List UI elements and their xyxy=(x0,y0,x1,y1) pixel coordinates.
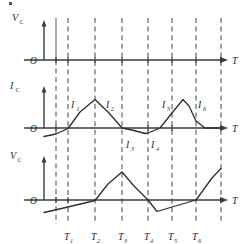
time-label-t2: T 2 xyxy=(91,231,100,244)
current-label-i4: I 4 xyxy=(150,139,159,152)
time-label-t6: T 6 xyxy=(192,231,202,244)
current-label-i3: I 3 xyxy=(125,139,134,152)
chart-top-y-arrow-icon xyxy=(42,20,47,27)
current-label-i6-sub: 6 xyxy=(203,105,207,112)
current-label-i4-base: I xyxy=(150,139,155,150)
chart-bottom-x-arrow-icon xyxy=(220,197,228,203)
current-label-i1-base: I xyxy=(70,99,75,110)
current-label-i5: I 5 xyxy=(161,99,170,112)
waveform-figure: V C O T I C O T I 1 I xyxy=(0,0,249,244)
current-label-i2: I 2 xyxy=(105,99,114,112)
chart-bottom-voltage-waveform xyxy=(44,169,221,213)
chart-bottom-y-arrow-icon xyxy=(42,156,47,163)
current-label-i3-sub: 3 xyxy=(130,145,134,152)
chart-top-origin-label: O xyxy=(30,56,37,66)
time-label-t5-sub: 5 xyxy=(174,237,177,244)
chart-top-x-label: T xyxy=(232,55,239,66)
current-label-i1: I 1 xyxy=(70,99,80,112)
current-label-i1-sub: 1 xyxy=(77,105,80,112)
current-label-i4-sub: 4 xyxy=(156,145,159,152)
chart-middle-y-label-sub: C xyxy=(16,86,20,93)
current-label-i6: I 6 xyxy=(197,99,207,112)
chart-bottom-origin-label: O xyxy=(30,196,37,206)
current-label-i5-base: I xyxy=(161,99,166,110)
time-axis-labels: T 1 T 2 T 3 T 4 T 5 T 6 xyxy=(64,231,202,244)
time-label-t4-sub: 4 xyxy=(150,237,153,244)
chart-middle-y-arrow-icon xyxy=(42,86,47,93)
chart-middle: I C O T I 1 I 2 I 3 I 4 I 5 xyxy=(9,80,239,152)
chart-middle-origin-label: O xyxy=(30,124,37,134)
waveform-svg: V C O T I C O T I 1 I xyxy=(0,0,249,244)
current-label-i5-sub: 5 xyxy=(167,105,170,112)
time-label-t5: T 5 xyxy=(168,231,177,244)
time-label-t1: T 1 xyxy=(64,231,73,244)
chart-bottom: V C O T xyxy=(10,150,239,213)
current-label-i3-base: I xyxy=(125,139,130,150)
chart-middle-y-label: I xyxy=(9,80,14,91)
current-label-i2-base: I xyxy=(105,99,110,110)
chart-bottom-y-label-sub: C xyxy=(18,156,22,163)
time-label-t3: T 3 xyxy=(118,231,127,244)
time-label-t3-sub: 3 xyxy=(123,237,127,244)
current-label-i2-sub: 2 xyxy=(111,105,114,112)
current-label-i6-base: I xyxy=(197,99,202,110)
chart-top-y-label-sub: C xyxy=(20,18,24,25)
time-label-t2-sub: 2 xyxy=(97,237,100,244)
time-label-t4: T 4 xyxy=(144,231,153,244)
chart-middle-x-label: T xyxy=(232,123,239,134)
time-label-t1-sub: 1 xyxy=(70,237,73,244)
chart-top: V C O T xyxy=(12,12,239,66)
chart-bottom-x-label: T xyxy=(232,195,239,206)
corner-speck-icon xyxy=(9,2,12,5)
time-label-t6-sub: 6 xyxy=(198,237,202,244)
